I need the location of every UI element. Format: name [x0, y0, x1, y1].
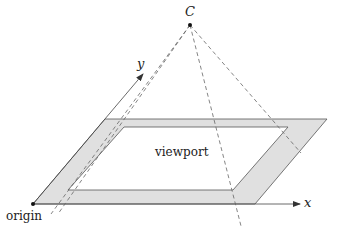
center-point [188, 23, 192, 27]
viewport-diagram [0, 0, 337, 232]
center-label: C [185, 4, 195, 19]
origin-point [31, 202, 35, 206]
y-axis-label: y [137, 56, 144, 71]
viewport-label: viewport [155, 145, 208, 159]
x-axis-label: x [304, 195, 311, 210]
y-axis [33, 74, 143, 204]
origin-label: origin [6, 209, 42, 223]
